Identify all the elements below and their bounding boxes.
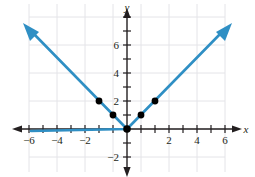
x-axis-right-arrow-icon <box>232 125 242 132</box>
data-point <box>110 112 117 119</box>
data-point <box>152 98 159 105</box>
coordinate-plane: −6 −4 −2 2 4 6 −2 2 4 6 x y <box>0 0 255 177</box>
y-tick-label: 2 <box>114 95 120 107</box>
data-point <box>96 98 103 105</box>
data-point <box>123 125 131 133</box>
x-tick-labels: −6 −4 −2 2 4 6 <box>23 134 228 146</box>
x-tick-label: −2 <box>79 134 91 146</box>
x-axis-left-arrow-icon <box>12 125 22 132</box>
x-tick-label: 4 <box>194 134 200 146</box>
y-tick-label: 6 <box>114 39 120 51</box>
y-axis-label: y <box>124 1 130 13</box>
x-tick-label: 2 <box>166 134 172 146</box>
x-axis-label: x <box>243 123 249 135</box>
x-tick-label: 6 <box>222 134 228 146</box>
y-tick-label: 4 <box>114 67 120 79</box>
curve-right-arrow-icon <box>216 23 232 41</box>
graph-figure: −6 −4 −2 2 4 6 −2 2 4 6 x y <box>0 0 255 177</box>
x-tick-label: −4 <box>51 134 63 146</box>
y-tick-label: −2 <box>107 151 119 163</box>
data-point <box>138 112 145 119</box>
x-tick-label: −6 <box>23 134 35 146</box>
y-axis-bottom-arrow-icon <box>123 167 130 177</box>
y-axis <box>123 8 130 177</box>
